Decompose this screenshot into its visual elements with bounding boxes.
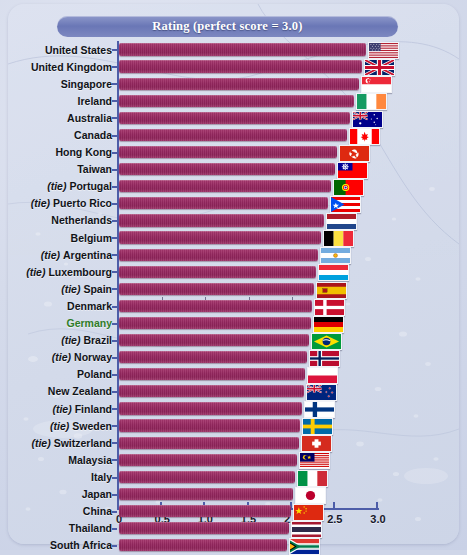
bar-category-label: Ireland (0, 92, 112, 109)
bar[interactable] (119, 454, 297, 466)
bar[interactable] (119, 334, 309, 346)
table-row[interactable]: Malaysia (0, 451, 467, 468)
grid-mark (292, 297, 293, 300)
table-row[interactable]: Australia (0, 109, 467, 126)
table-row[interactable]: South Africa (0, 537, 467, 554)
table-row[interactable]: (tie)Luxembourg (0, 263, 467, 280)
bar-category-label: (tie)Argentina (0, 246, 112, 263)
bar[interactable] (119, 317, 311, 329)
flag-my-icon (299, 452, 330, 469)
bar[interactable] (119, 505, 291, 517)
bar[interactable] (119, 197, 328, 209)
bar[interactable] (119, 231, 321, 243)
bar[interactable] (119, 351, 307, 363)
country-name: United States (45, 44, 112, 56)
table-row[interactable]: Poland (0, 366, 467, 383)
bar[interactable] (119, 43, 366, 55)
bar[interactable] (119, 112, 350, 124)
country-name: Italy (91, 471, 112, 483)
table-row[interactable]: Denmark (0, 297, 467, 314)
table-row[interactable]: United Kingdom (0, 58, 467, 75)
bar-category-label: (tie)Puerto Rico (0, 195, 112, 212)
bar[interactable] (119, 488, 293, 500)
table-row[interactable]: Taiwan (0, 161, 467, 178)
table-row[interactable]: Netherlands (0, 212, 467, 229)
grid-mark (162, 297, 163, 300)
table-row[interactable]: Japan (0, 485, 467, 502)
bar-category-label: Netherlands (0, 212, 112, 229)
table-row[interactable]: United States (0, 41, 467, 58)
flag-no-icon (309, 350, 340, 367)
bar[interactable] (119, 539, 287, 551)
table-row[interactable]: (tie)Finland (0, 400, 467, 417)
bar[interactable] (119, 402, 302, 414)
tie-marker: (tie) (52, 403, 71, 415)
bar-category-label: (tie)Sweden (0, 417, 112, 434)
bar[interactable] (119, 249, 318, 261)
flag-sg-icon (361, 76, 392, 93)
bar[interactable] (119, 129, 347, 141)
country-name: Spain (83, 283, 112, 295)
bar[interactable] (119, 300, 312, 312)
bar[interactable] (119, 385, 304, 397)
grid-mark (249, 297, 250, 300)
flag-jp-icon (295, 487, 326, 504)
table-row[interactable]: (tie)Spain (0, 280, 467, 297)
bar-category-label: (tie)Finland (0, 400, 112, 417)
bar-category-label: Denmark (0, 297, 112, 314)
table-row[interactable]: China (0, 503, 467, 520)
country-name: Thailand (69, 522, 112, 534)
table-row[interactable]: (tie)Switzerland (0, 434, 467, 451)
table-row[interactable]: Belgium (0, 229, 467, 246)
table-row[interactable]: New Zealand (0, 383, 467, 400)
bar[interactable] (119, 146, 337, 158)
bar[interactable] (119, 283, 314, 295)
bar[interactable] (119, 78, 359, 90)
bar[interactable] (119, 266, 316, 278)
flag-hk-icon (339, 145, 370, 162)
tie-marker: (tie) (61, 334, 80, 346)
table-row[interactable]: Canada (0, 126, 467, 143)
country-name: Hong Kong (55, 146, 112, 158)
table-row[interactable]: (tie)Sweden (0, 417, 467, 434)
flag-be-icon (323, 230, 354, 247)
table-row[interactable]: Hong Kong (0, 144, 467, 161)
bar[interactable] (119, 471, 295, 483)
bar-category-label: Hong Kong (0, 144, 112, 161)
table-row[interactable]: (tie)Portugal (0, 178, 467, 195)
flag-fi-icon (304, 401, 335, 418)
table-row[interactable]: Germany (0, 315, 467, 332)
bar-category-label: Singapore (0, 75, 112, 92)
country-name: Poland (77, 368, 112, 380)
table-row[interactable]: (tie)Puerto Rico (0, 195, 467, 212)
table-row[interactable]: Thailand (0, 520, 467, 537)
flag-za-icon (289, 538, 320, 555)
table-row[interactable]: Italy (0, 468, 467, 485)
flag-ca-icon (349, 128, 380, 145)
table-row[interactable]: Singapore (0, 75, 467, 92)
bar[interactable] (119, 419, 300, 431)
flag-gb-icon (364, 59, 395, 76)
flag-ch-icon (301, 435, 332, 452)
bar-category-label: (tie)Brazil (0, 332, 112, 349)
bar[interactable] (119, 368, 305, 380)
tie-marker: (tie) (61, 283, 80, 295)
table-row[interactable]: (tie)Brazil (0, 332, 467, 349)
country-name: Australia (67, 112, 112, 124)
flag-cn-icon (293, 504, 324, 521)
country-name: Belgium (71, 232, 112, 244)
table-row[interactable]: (tie)Norway (0, 349, 467, 366)
table-row[interactable]: Ireland (0, 92, 467, 109)
bar[interactable] (119, 95, 354, 107)
tie-marker: (tie) (26, 266, 45, 278)
bar[interactable] (119, 180, 331, 192)
flag-dk-icon (314, 299, 345, 316)
bar[interactable] (119, 163, 335, 175)
bar[interactable] (119, 214, 324, 226)
table-row[interactable]: (tie)Argentina (0, 246, 467, 263)
bar[interactable] (119, 437, 299, 449)
bar-category-label: South Africa (0, 537, 112, 554)
bar[interactable] (119, 522, 289, 534)
country-name: Ireland (78, 95, 112, 107)
bar[interactable] (119, 60, 362, 72)
